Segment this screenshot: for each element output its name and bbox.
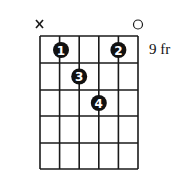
fret-position-label: 9 fr — [149, 41, 170, 58]
finger-dot-1: 1 — [53, 42, 69, 58]
finger-dot-4: 4 — [91, 95, 107, 111]
svg-text:3: 3 — [75, 70, 83, 84]
finger-dot-3: 3 — [71, 69, 87, 85]
open-string-marker — [134, 20, 143, 29]
svg-text:1: 1 — [57, 44, 65, 58]
svg-text:4: 4 — [95, 97, 103, 111]
chord-diagram: 1 2 3 4 — [0, 0, 176, 173]
muted-string-marker — [36, 20, 43, 28]
finger-dot-2: 2 — [110, 42, 126, 58]
svg-text:2: 2 — [114, 44, 122, 58]
